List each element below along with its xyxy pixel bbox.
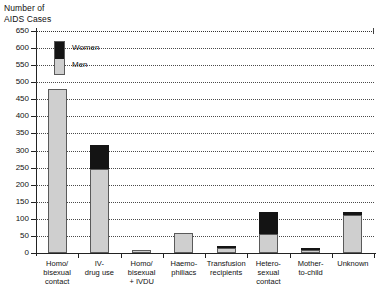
y-axis-tick-label: 350 — [3, 129, 29, 137]
y-axis-tick-label-wrap: 200 — [0, 181, 29, 189]
bar-6 — [259, 212, 278, 253]
bar-segment-men — [48, 89, 67, 253]
y-axis-tick-label-wrap: 650 — [0, 27, 29, 35]
y-axis-tick-label-wrap: 300 — [0, 147, 29, 155]
y-axis-tick-label-wrap: 100 — [0, 215, 29, 223]
y-axis-tick-label: 450 — [3, 95, 29, 103]
y-axis-tick-label-wrap: 0 — [0, 249, 29, 257]
y-axis-tick-label-wrap: 350 — [0, 129, 29, 137]
bar-2 — [90, 145, 109, 253]
y-axis-tick-label: 0 — [3, 249, 29, 257]
y-axis-tick-label-wrap: 250 — [0, 164, 29, 172]
bar-4 — [174, 233, 193, 253]
y-axis-tick-label: 600 — [3, 44, 29, 52]
y-axis-tick-label-wrap: 550 — [0, 61, 29, 69]
x-axis-tick — [205, 253, 206, 258]
x-axis-tick — [247, 253, 248, 258]
legend-swatch-women — [55, 42, 64, 59]
y-axis-tick-label: 650 — [3, 27, 29, 35]
bar-segment-men — [301, 250, 320, 253]
bar-segment-women — [301, 248, 320, 250]
y-axis-tick-label-wrap: 450 — [0, 95, 29, 103]
bar-segment-men — [217, 248, 236, 253]
bar-8 — [343, 212, 362, 253]
bar-segment-men — [132, 250, 151, 253]
bar-segment-women — [90, 145, 109, 169]
x-axis-tick — [290, 253, 291, 258]
x-axis-tick — [332, 253, 333, 258]
y-axis-tick-label: 300 — [3, 147, 29, 155]
x-axis-tick — [374, 253, 375, 258]
y-axis-tick-label: 500 — [3, 78, 29, 86]
x-axis-tick — [163, 253, 164, 258]
bar-segment-women — [343, 212, 362, 215]
y-axis-tick-label-wrap: 500 — [0, 78, 29, 86]
legend-label-women: Women — [72, 43, 99, 52]
bar-segment-men — [259, 234, 278, 253]
y-axis-tick-label-wrap: 50 — [0, 232, 29, 240]
y-axis-tick-label: 400 — [3, 112, 29, 120]
legend-label-men: Men — [72, 60, 88, 69]
bar-segment-women — [259, 212, 278, 234]
bar-segment-men — [174, 233, 193, 253]
legend-swatch-men — [54, 41, 65, 75]
legend: Women Men — [54, 40, 174, 76]
bar-segment-men — [343, 215, 362, 253]
x-axis-tick — [78, 253, 79, 258]
bar-3 — [132, 250, 151, 253]
aids-cases-bar-chart: Number of AIDS Cases 0501001502002503003… — [0, 0, 380, 292]
y-axis-tick — [31, 253, 36, 254]
y-axis-title: Number of AIDS Cases — [4, 3, 51, 24]
bar-segment-women — [217, 246, 236, 248]
y-axis-tick-label: 250 — [3, 164, 29, 172]
y-axis-tick-label-wrap: 600 — [0, 44, 29, 52]
bar-1 — [48, 89, 67, 253]
y-axis-tick-label: 100 — [3, 215, 29, 223]
y-axis-tick-label-wrap: 150 — [0, 198, 29, 206]
bar-7 — [301, 249, 320, 253]
y-axis-tick-label: 150 — [3, 198, 29, 206]
x-axis-category-label: Unknown — [326, 259, 380, 268]
y-axis-tick-label: 550 — [3, 61, 29, 69]
y-axis-tick-label: 200 — [3, 181, 29, 189]
y-axis-tick-label: 50 — [3, 232, 29, 240]
y-axis-tick-label-wrap: 400 — [0, 112, 29, 120]
bar-segment-men — [90, 169, 109, 253]
bar-5 — [217, 246, 236, 253]
x-axis-tick — [121, 253, 122, 258]
